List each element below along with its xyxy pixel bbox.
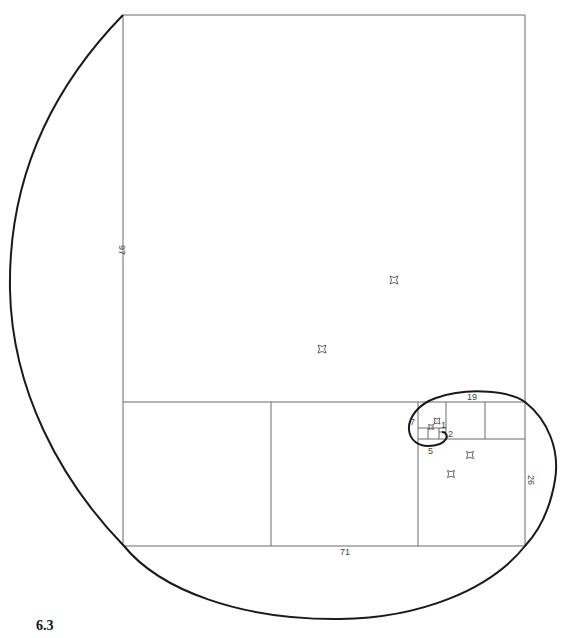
label-inner-2: 2	[448, 429, 453, 439]
label-inner-bottom: 5	[428, 446, 433, 456]
square-grid	[123, 15, 525, 546]
star-icon	[318, 345, 326, 353]
spiral-curve	[10, 15, 556, 619]
label-right-side: 26	[526, 475, 536, 485]
label-inner-1: 1	[441, 420, 446, 430]
label-top-inner: 19	[467, 392, 477, 402]
label-bottom: 71	[340, 547, 350, 557]
label-inner-left: 7	[410, 417, 415, 427]
star-icon	[448, 471, 455, 478]
figure-caption: 6.3	[36, 618, 54, 634]
star-markers	[318, 276, 474, 478]
label-left-side: 97	[117, 245, 127, 255]
star-icon	[429, 425, 434, 430]
spiral-diagram: 97 71 26 19 7 5 2 1	[0, 0, 567, 638]
star-icon	[467, 452, 474, 459]
star-icon	[390, 276, 398, 284]
star-icon	[434, 418, 440, 424]
